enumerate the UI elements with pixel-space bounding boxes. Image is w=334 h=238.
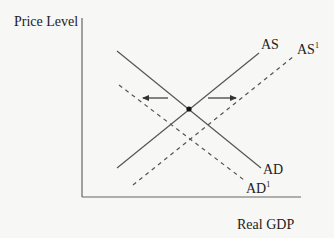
ad-label: AD bbox=[263, 162, 283, 177]
ad1-label: AD1 bbox=[246, 180, 270, 196]
y-axis-label: Price Level bbox=[14, 14, 78, 29]
x-axis-label: Real GDP bbox=[237, 217, 294, 232]
as1-label: AS1 bbox=[297, 41, 319, 57]
equilibrium-point bbox=[186, 106, 191, 111]
as-ad-diagram: Price Level Real GDP AS AS1 AD AD1 bbox=[0, 0, 334, 238]
as-label: AS bbox=[261, 37, 279, 52]
ad1-curve bbox=[119, 85, 244, 180]
